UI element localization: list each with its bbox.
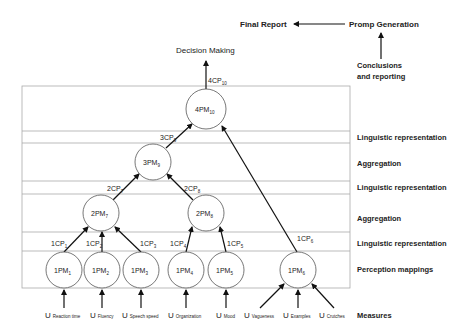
edge-label-1cp5: 1CP5 <box>227 240 244 249</box>
promp-generation-label: Promp Generation <box>349 20 419 29</box>
conclusions-label-2: and reporting <box>357 72 406 81</box>
edge-label-2cp8: 2CP8 <box>184 185 201 194</box>
node-1pm3: 1PM3 <box>123 252 159 288</box>
layer-linguistic-2: Linguistic representation <box>357 183 447 192</box>
edge-label-4cp10: 4CP10 <box>208 77 227 86</box>
node-3pm9: 3PM9 <box>135 144 171 180</box>
decision-making-label: Decision Making <box>176 46 235 55</box>
node-1pm2: 1PM2 <box>84 252 120 288</box>
conclusions-label-1: Conclusions <box>357 61 402 70</box>
measure-reaction-time: UReaction time <box>45 311 81 320</box>
layer-measures: Measures <box>357 311 392 320</box>
node-4pm10: 4PM10 <box>186 89 226 129</box>
edge-label-3cp9: 3CP9 <box>160 134 177 143</box>
measure-vagueness: UVagueness <box>244 311 275 320</box>
edge-label-1cp2: 1CP2 <box>86 240 103 249</box>
edge-1cp5 <box>220 227 226 252</box>
layer-linguistic-3: Linguistic representation <box>357 239 447 248</box>
node-1pm1: 1PM1 <box>46 252 82 288</box>
layer-linguistic-1: Linguistic representation <box>357 133 447 142</box>
node-2pm8: 2PM8 <box>188 195 224 231</box>
edge-label-1cp4: 1CP4 <box>170 240 187 249</box>
measure-mood: UMood <box>216 311 236 320</box>
node-1pm6: 1PM6 <box>280 252 316 288</box>
edge-label-1cp3: 1CP3 <box>140 240 157 249</box>
node-1pm4: 1PM4 <box>168 252 204 288</box>
layer-aggregation-2: Aggregation <box>357 214 402 223</box>
edge-1cp3 <box>115 227 141 252</box>
measure-examples: UExamples <box>283 311 311 320</box>
measure-organization: UOrganization <box>168 311 202 320</box>
layer-aggregation-1: Aggregation <box>357 159 402 168</box>
edge-1cp1 <box>64 227 88 252</box>
edge-label-2cp7: 2CP7 <box>107 185 124 194</box>
measure-crutches: UCrutches <box>319 311 346 320</box>
edge-label-1cp6: 1CP6 <box>297 235 314 244</box>
node-1pm5: 1PM5 <box>208 252 244 288</box>
edge-label-1cp1: 1CP1 <box>51 240 68 249</box>
measure-speech-speed: USpeech speed <box>122 311 159 320</box>
edge-1cp6 <box>222 126 297 252</box>
edge-1cp4 <box>186 227 192 252</box>
measure-fluency: UFluency <box>90 311 114 320</box>
layer-perception: Perception mappings <box>357 265 433 274</box>
final-report-label: Final Report <box>240 20 287 29</box>
node-2pm7: 2PM7 <box>83 195 119 231</box>
diagram-canvas: Final Report Promp Generation Conclusion… <box>0 0 468 334</box>
